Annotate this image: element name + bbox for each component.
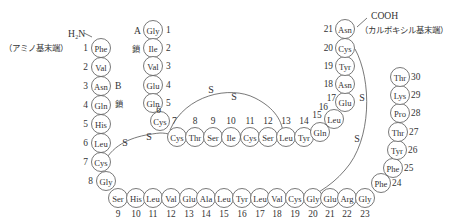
residue-number: 4 [166, 80, 171, 90]
residue-abbr: Thr [189, 133, 202, 143]
insulin-structure-diagram: S S S S S S H₂N （アミノ基末端） B 鎖 A 鎖 COOH （カ… [0, 0, 460, 221]
residue-abbr: Tyr [236, 194, 248, 204]
b-chain-residue-8: Gly8 [88, 172, 115, 191]
a-chain-residue-18: Asn18 [324, 75, 355, 94]
residue-abbr: Cys [243, 133, 257, 143]
b-chain-residue-21: Glu21 [321, 189, 340, 220]
residue-abbr: Ser [262, 133, 274, 143]
b-chain-residue-13: Glu13 [180, 189, 199, 220]
residue-number: 14 [201, 209, 211, 219]
sulfur-atom: S [354, 133, 360, 144]
sulfur-atom: S [359, 92, 365, 103]
residue-number: 3 [83, 81, 88, 91]
n-terminus-label: H₂N [68, 28, 85, 39]
residue-abbr: Phe [95, 44, 108, 54]
a-chain-residue-21: Asn21 [324, 20, 355, 39]
residue-number: 22 [342, 209, 352, 219]
residue-number: 2 [83, 62, 88, 72]
residue-number: 1 [166, 25, 171, 35]
residue-number: 13 [184, 209, 194, 219]
residue-abbr: Thr [392, 128, 405, 138]
residue-number: 3 [166, 61, 171, 71]
a-chain: Gly1Ile2Val3Glu4Gln5Cys6Cys7Thr8Ser9Ile1… [144, 20, 355, 147]
residue-abbr: Asn [94, 82, 109, 92]
residue-abbr: Cys [170, 133, 184, 143]
residue-number: 26 [408, 145, 418, 155]
a-chain-residue-2: Ile2 [144, 39, 172, 58]
residue-number: 19 [324, 61, 334, 71]
residue-abbr: Tyr [391, 146, 403, 156]
b-chain-residue-29: Lys29 [391, 86, 421, 105]
residue-abbr: Leu [217, 194, 231, 204]
residue-number: 6 [156, 105, 161, 115]
b-chain-residue-6: Leu6 [83, 134, 110, 153]
residue-number: 1 [83, 43, 88, 53]
sulfur-atom: S [208, 84, 214, 95]
residue-abbr: Gly [147, 26, 161, 36]
a-chain-residue-11: Cys11 [241, 116, 260, 147]
a-chain-residue-8: Thr8 [186, 116, 205, 147]
residue-abbr: Phe [387, 164, 400, 174]
residue-abbr: Ala [200, 194, 213, 204]
a-chain-residue-4: Glu4 [144, 76, 172, 95]
residue-abbr: His [95, 120, 108, 130]
residue-number: 7 [83, 157, 88, 167]
residue-number: 11 [245, 116, 254, 126]
residue-number: 5 [166, 98, 171, 108]
residue-number: 12 [263, 116, 273, 126]
residue-number: 17 [327, 93, 337, 103]
residue-abbr: Gly [307, 194, 321, 204]
residue-number: 5 [83, 119, 88, 129]
n-terminus-note: （アミノ基末端） [4, 43, 68, 53]
a-chain-residue-3: Val3 [144, 57, 172, 76]
residue-number: 24 [392, 178, 402, 188]
a-chain-label: A [134, 25, 141, 36]
residue-abbr: Glu [339, 98, 353, 108]
residue-abbr: Leu [327, 115, 341, 125]
residue-number: 16 [319, 102, 329, 112]
residue-abbr: Cys [338, 44, 352, 54]
a-chain-label-kanji: 鎖 [132, 44, 141, 54]
residue-abbr: Ile [226, 133, 235, 143]
b-chain-residue-5: His5 [83, 115, 110, 134]
residue-number: 14 [299, 116, 309, 126]
a-chain-residue-12: Ser12 [259, 116, 278, 147]
residue-number: 21 [324, 24, 334, 34]
residue-abbr: Val [271, 194, 283, 204]
b-chain-residue-17: Leu17 [251, 189, 270, 220]
b-chain-residue-23: Gly23 [356, 189, 375, 220]
residue-abbr: Gln [314, 128, 328, 138]
residue-abbr: Ser [112, 194, 124, 204]
b-chain-residue-20: Gly20 [304, 189, 323, 220]
residue-number: 29 [411, 90, 421, 100]
residue-abbr: Cys [94, 158, 108, 168]
disulfide-bond-a7-b7 [108, 133, 175, 156]
residue-number: 11 [148, 209, 157, 219]
b-chain-residue-18: Val18 [268, 189, 287, 220]
residue-number: 21 [325, 209, 335, 219]
residue-number: 10 [226, 116, 236, 126]
residue-abbr: Leu [94, 139, 108, 149]
residue-abbr: Gly [359, 194, 373, 204]
residue-number: 25 [404, 163, 414, 173]
b-chain-residue-9: Ser9 [109, 189, 128, 220]
sulfur-atom: S [122, 137, 128, 148]
diagram-canvas: S S S S S S H₂N （アミノ基末端） B 鎖 A 鎖 COOH （カ… [0, 0, 460, 221]
residue-abbr: Val [147, 62, 159, 72]
b-chain-residue-22: Arg22 [338, 189, 357, 220]
residue-abbr: Gln [95, 101, 109, 111]
b-chain-residue-10: His10 [127, 189, 146, 220]
b-chain-label-kanji: 鎖 [115, 99, 124, 109]
residue-abbr: Leu [146, 194, 160, 204]
residue-abbr: Cys [153, 117, 167, 127]
residue-abbr: Asn [338, 25, 353, 35]
residue-number: 20 [308, 209, 318, 219]
b-chain-residue-14: Ala14 [197, 189, 216, 220]
a-chain-residue-20: Cys20 [324, 39, 355, 58]
residue-number: 18 [324, 79, 334, 89]
sulfur-atom: S [146, 131, 152, 142]
residue-number: 19 [290, 209, 300, 219]
residue-abbr: Arg [340, 194, 354, 204]
b-chain-residue-4: Gln4 [83, 96, 110, 115]
residue-abbr: Tyr [298, 133, 310, 143]
